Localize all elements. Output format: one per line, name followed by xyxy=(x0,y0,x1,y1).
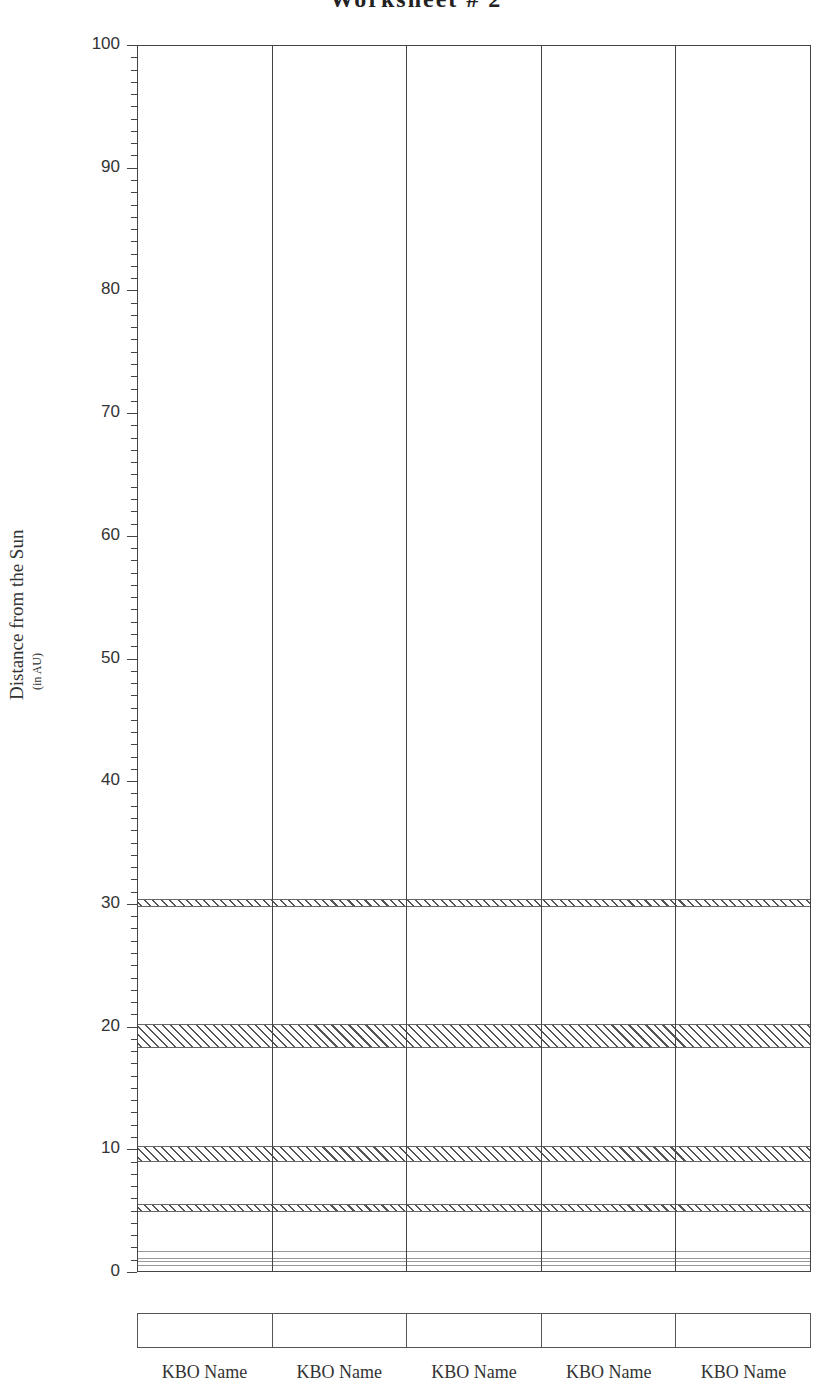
kbo-name-box-2[interactable] xyxy=(273,1314,408,1347)
kbo-name-label-2: KBO Name xyxy=(272,1362,407,1383)
y-major-tick xyxy=(127,659,137,660)
kbo-name-label-1: KBO Name xyxy=(137,1362,272,1383)
column-divider xyxy=(406,46,407,1271)
y-tick-label: 20 xyxy=(80,1016,120,1036)
y-axis: Distance from the Sun (in AU) 0102030405… xyxy=(0,0,137,1280)
orbit-line-1 xyxy=(138,1265,810,1266)
y-major-tick xyxy=(127,1272,137,1273)
kbo-name-labels: KBO NameKBO NameKBO NameKBO NameKBO Name xyxy=(137,1362,811,1383)
y-axis-label: Distance from the Sun xyxy=(6,530,28,700)
column-divider xyxy=(272,46,273,1271)
y-tick-label: 60 xyxy=(80,525,120,545)
y-tick-label: 0 xyxy=(80,1261,120,1281)
y-tick-label: 90 xyxy=(80,157,120,177)
plot-area xyxy=(137,45,811,1272)
orbit-line-4 xyxy=(138,1251,810,1252)
kbo-name-label-4: KBO Name xyxy=(541,1362,676,1383)
y-major-tick xyxy=(127,45,137,46)
orbit-band-4 xyxy=(138,899,810,907)
column-divider xyxy=(675,46,676,1271)
y-tick-label: 100 xyxy=(80,34,120,54)
y-tick-label: 30 xyxy=(80,893,120,913)
y-tick-label: 40 xyxy=(80,770,120,790)
y-tick-label: 50 xyxy=(80,648,120,668)
orbit-band-3 xyxy=(138,1024,810,1048)
y-major-tick xyxy=(127,1149,137,1150)
kbo-name-boxes xyxy=(137,1313,811,1348)
y-major-tick xyxy=(127,1027,137,1028)
y-tick-label: 70 xyxy=(80,402,120,422)
orbit-line-2 xyxy=(138,1261,810,1262)
y-major-tick xyxy=(127,168,137,169)
column-divider xyxy=(541,46,542,1271)
kbo-name-box-4[interactable] xyxy=(542,1314,677,1347)
y-major-tick xyxy=(127,290,137,291)
orbit-line-3 xyxy=(138,1258,810,1259)
kbo-name-box-1[interactable] xyxy=(138,1314,273,1347)
y-tick-label: 10 xyxy=(80,1138,120,1158)
kbo-name-box-3[interactable] xyxy=(407,1314,542,1347)
y-major-tick xyxy=(127,536,137,537)
y-axis-unit-label: (in AU) xyxy=(30,653,45,690)
y-tick-label: 80 xyxy=(80,279,120,299)
orbit-band-1 xyxy=(138,1204,810,1212)
y-major-tick xyxy=(127,904,137,905)
kbo-name-box-5[interactable] xyxy=(676,1314,810,1347)
kbo-name-label-3: KBO Name xyxy=(407,1362,542,1383)
y-major-tick xyxy=(127,413,137,414)
orbit-band-2 xyxy=(138,1146,810,1161)
kbo-name-label-5: KBO Name xyxy=(676,1362,811,1383)
y-major-tick xyxy=(127,781,137,782)
